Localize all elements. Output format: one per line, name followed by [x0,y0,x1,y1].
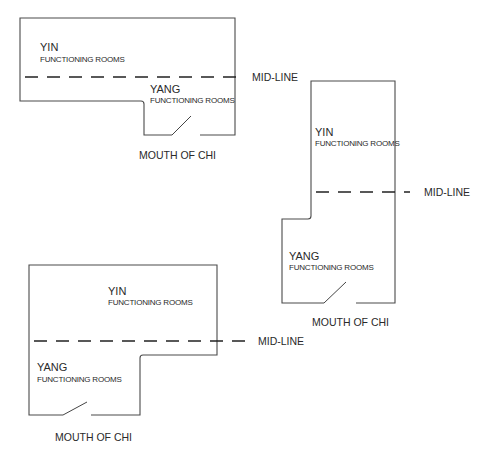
yang-subtitle: FUNCTIONING ROOMS [289,263,374,272]
diagram-top-left: YIN FUNCTIONING ROOMS YANG FUNCTIONING R… [20,18,298,161]
yin-subtitle: FUNCTIONING ROOMS [108,298,193,307]
yang-title: YANG [289,250,319,262]
door-swing-icon [324,282,346,303]
yin-subtitle: FUNCTIONING ROOMS [40,55,125,64]
mid-line-label: MID-LINE [252,71,298,83]
yang-title: YANG [150,83,180,95]
diagram-right: YIN FUNCTIONING ROOMS YANG FUNCTIONING R… [282,81,470,328]
yin-subtitle: FUNCTIONING ROOMS [315,139,400,148]
feng-shui-floorplan-diagrams: YIN FUNCTIONING ROOMS YANG FUNCTIONING R… [0,0,484,456]
mouth-of-chi-label: MOUTH OF CHI [139,149,216,161]
yang-subtitle: FUNCTIONING ROOMS [150,96,235,105]
mid-line-label: MID-LINE [258,335,304,347]
yin-title: YIN [108,285,126,297]
door-swing-icon [63,402,87,415]
mid-line-label: MID-LINE [424,186,470,198]
yang-title: YANG [37,361,67,373]
door-swing-icon [172,116,191,135]
mouth-of-chi-label: MOUTH OF CHI [312,316,389,328]
yin-title: YIN [40,41,58,53]
mouth-of-chi-label: MOUTH OF CHI [55,431,132,443]
yin-title: YIN [315,126,333,138]
diagram-bottom-left: YIN FUNCTIONING ROOMS YANG FUNCTIONING R… [29,265,304,443]
yang-subtitle: FUNCTIONING ROOMS [37,375,122,384]
